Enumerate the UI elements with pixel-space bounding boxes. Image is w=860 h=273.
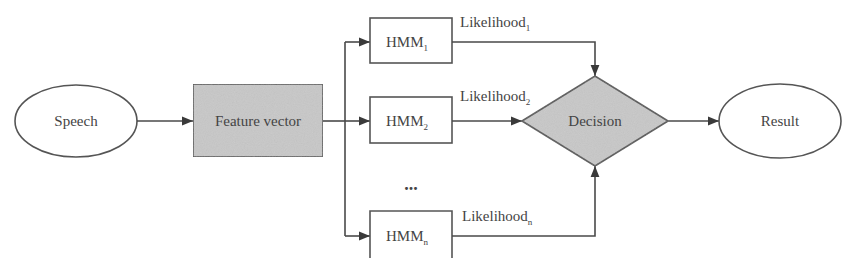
feature-vector-node: Feature vector — [193, 84, 323, 157]
hmm1-node: HMM1 — [370, 18, 452, 63]
edge-hmm1-to-decision — [452, 42, 595, 76]
decision-label: Decision — [568, 113, 622, 129]
likelihoodn-label: Likelihoodn — [462, 208, 533, 227]
decision-node: Decision — [522, 76, 668, 166]
likelihood1-label: Likelihood1 — [460, 14, 530, 33]
hmm-speech-recognition-flowchart: Speech Feature vector HMM1 HMM2 ... HMMn… — [0, 0, 860, 273]
result-label: Result — [761, 113, 800, 129]
speech-label: Speech — [54, 113, 98, 129]
hmm2-node: HMM2 — [370, 97, 452, 143]
edge-hmmn-to-decision — [452, 166, 595, 236]
result-node: Result — [719, 84, 841, 158]
speech-node: Speech — [15, 85, 137, 157]
feature-vector-label: Feature vector — [215, 113, 301, 129]
likelihood2-label: Likelihood2 — [460, 88, 530, 107]
ellipsis-more-hmms: ... — [404, 174, 418, 194]
hmmn-node: HMMn — [370, 211, 452, 258]
